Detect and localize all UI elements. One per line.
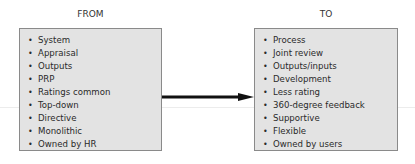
list-item: Owned by users <box>263 138 397 151</box>
list-item: Owned by HR <box>28 138 161 151</box>
list-item: Appraisal <box>28 47 161 60</box>
to-list: Process Joint review Outputs/inputs Deve… <box>263 34 397 151</box>
list-item: System <box>28 34 161 47</box>
list-item: Supportive <box>263 112 397 125</box>
list-item: Monolithic <box>28 125 161 138</box>
list-item: Less rating <box>263 86 397 99</box>
list-item: Directive <box>28 112 161 125</box>
list-item: Outputs/inputs <box>263 60 397 73</box>
from-box: System Appraisal Outputs PRP Ratings com… <box>19 28 162 151</box>
list-item: Outputs <box>28 60 161 73</box>
list-item: Joint review <box>263 47 397 60</box>
list-item: PRP <box>28 73 161 86</box>
to-heading: TO <box>254 9 398 19</box>
from-list: System Appraisal Outputs PRP Ratings com… <box>28 34 161 151</box>
list-item: Ratings common <box>28 86 161 99</box>
list-item: 360-degree feedback <box>263 99 397 112</box>
from-heading: FROM <box>19 9 162 19</box>
list-item: Flexible <box>263 125 397 138</box>
list-item: Top-down <box>28 99 161 112</box>
transition-arrow-icon <box>162 93 254 101</box>
to-box: Process Joint review Outputs/inputs Deve… <box>254 28 398 151</box>
list-item: Process <box>263 34 397 47</box>
list-item: Development <box>263 73 397 86</box>
